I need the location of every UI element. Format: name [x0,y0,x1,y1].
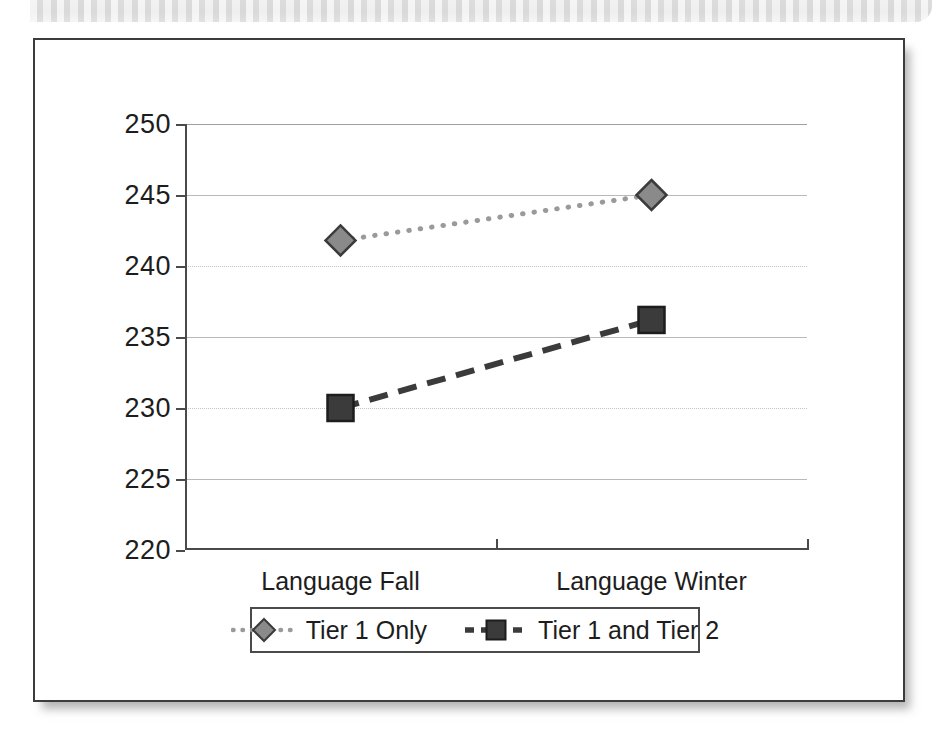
y-axis-label: 235 [124,322,171,353]
legend-entry: Tier 1 and Tier 2 [463,616,719,645]
scanned-page-edge-artifact [30,0,932,22]
chart-canvas: 220225230235240245250 Language FallLangu… [35,40,907,704]
legend-entry: Tier 1 Only [231,616,427,645]
data-series-group [185,124,807,550]
y-axis-label: 245 [124,180,171,211]
y-axis-tick [176,195,185,197]
y-axis-label: 230 [124,393,171,424]
legend-label: Tier 1 Only [306,616,427,645]
y-axis-tick [176,479,185,481]
y-axis-tick [176,124,185,126]
y-axis-tick [176,337,185,339]
chart-figure-frame: 220225230235240245250 Language FallLangu… [33,38,905,702]
y-axis-label: 220 [124,535,171,566]
legend-label: Tier 1 and Tier 2 [538,616,719,645]
series-line [341,320,652,408]
dotted-line-diamond-marker-icon [231,617,297,643]
series-line [341,195,652,240]
y-axis-label: 225 [124,464,171,495]
chart-legend: Tier 1 OnlyTier 1 and Tier 2 [250,607,700,653]
y-axis-tick [176,266,185,268]
x-axis-category-label: Language Winter [556,567,746,596]
x-axis-category-label: Language Fall [261,567,419,596]
data-point-marker [326,225,356,255]
plot-area: 220225230235240245250 Language FallLangu… [185,124,807,550]
data-point-marker [328,395,354,421]
legend-marker [487,621,506,640]
x-axis-tick [807,539,809,550]
y-axis-label: 250 [124,109,171,140]
data-point-marker [637,180,667,210]
y-axis-tick [176,408,185,410]
dashed-line-square-marker-icon [463,617,529,643]
y-axis-tick [176,550,185,552]
data-point-marker [639,307,665,333]
y-axis-label: 240 [124,251,171,282]
legend-marker [253,619,275,641]
